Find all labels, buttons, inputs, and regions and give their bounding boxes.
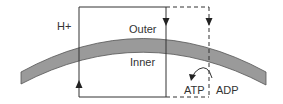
label-outer: Outer bbox=[129, 23, 157, 35]
label-inner: Inner bbox=[130, 56, 155, 68]
label-atp: ATP bbox=[184, 84, 205, 96]
label-adp: ADP bbox=[216, 84, 239, 96]
atp-synthesis-diagram: H+ Outer Inner ATP ADP bbox=[0, 0, 283, 104]
arrow-down-solid-icon bbox=[163, 18, 170, 26]
adp-to-atp-arrowhead-icon bbox=[189, 74, 196, 81]
arrow-up-solid-icon bbox=[76, 80, 83, 88]
arrow-down-dashed-icon bbox=[206, 18, 213, 26]
label-proton: H+ bbox=[57, 20, 71, 32]
